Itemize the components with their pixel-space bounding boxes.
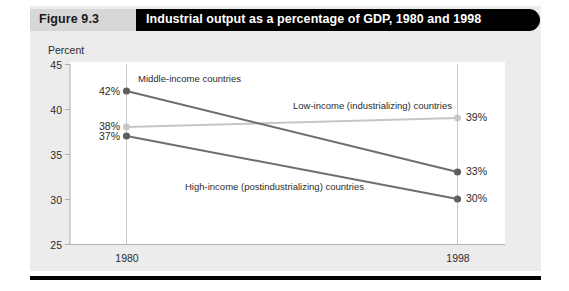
value-label-middle-income-1980: 42% [86,85,120,97]
series-point-high-income-1998 [454,195,461,202]
y-tick-label-30: 30 [38,194,62,206]
value-label-low-income-1998: 39% [466,111,487,123]
value-label-middle-income-1998: 33% [466,165,487,177]
series-point-high-income-1980 [123,132,130,139]
series-label-high-income: High-income (postindustrializing) countr… [185,181,364,192]
series-line-low-income [127,118,458,127]
bottom-divider [30,276,541,280]
x-tick-label-1980: 1980 [104,252,150,264]
y-tick-label-35: 35 [38,149,62,161]
value-label-high-income-1980: 37% [86,130,120,142]
chart-canvas [0,0,569,291]
x-tick-label-1998: 1998 [435,252,481,264]
figure-container: Figure 9.3 Industrial output as a percen… [0,0,569,291]
value-label-high-income-1998: 30% [466,192,487,204]
y-tick-label-40: 40 [38,104,62,116]
series-point-middle-income-1998 [454,168,461,175]
y-tick-label-45: 45 [38,59,62,71]
series-point-low-income-1980 [123,124,130,131]
series-label-low-income: Low-income (industrializing) countries [293,100,452,111]
series-label-middle-income: Middle-income countries [138,73,241,84]
series-point-middle-income-1980 [123,87,130,94]
y-tick-label-25: 25 [38,239,62,251]
series-point-low-income-1998 [454,115,461,122]
